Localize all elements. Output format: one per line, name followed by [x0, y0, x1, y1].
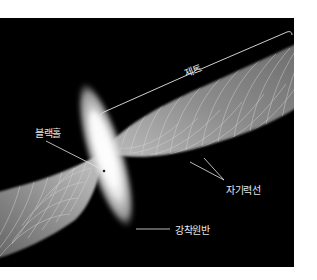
field-line-leader-2	[204, 158, 224, 180]
lower-jet	[0, 152, 104, 258]
black-hole-jet-illustration	[0, 18, 294, 267]
label-magnetic-field-lines: 자기력선	[226, 182, 261, 197]
diagram-panel: 제트 블랙홀 자기력선 강착원반	[0, 18, 294, 267]
black-hole-point	[103, 170, 106, 173]
field-line-leader-1	[190, 162, 224, 180]
label-accretion-disk: 강착원반	[175, 222, 210, 237]
label-black-hole: 블랙홀	[35, 125, 61, 140]
